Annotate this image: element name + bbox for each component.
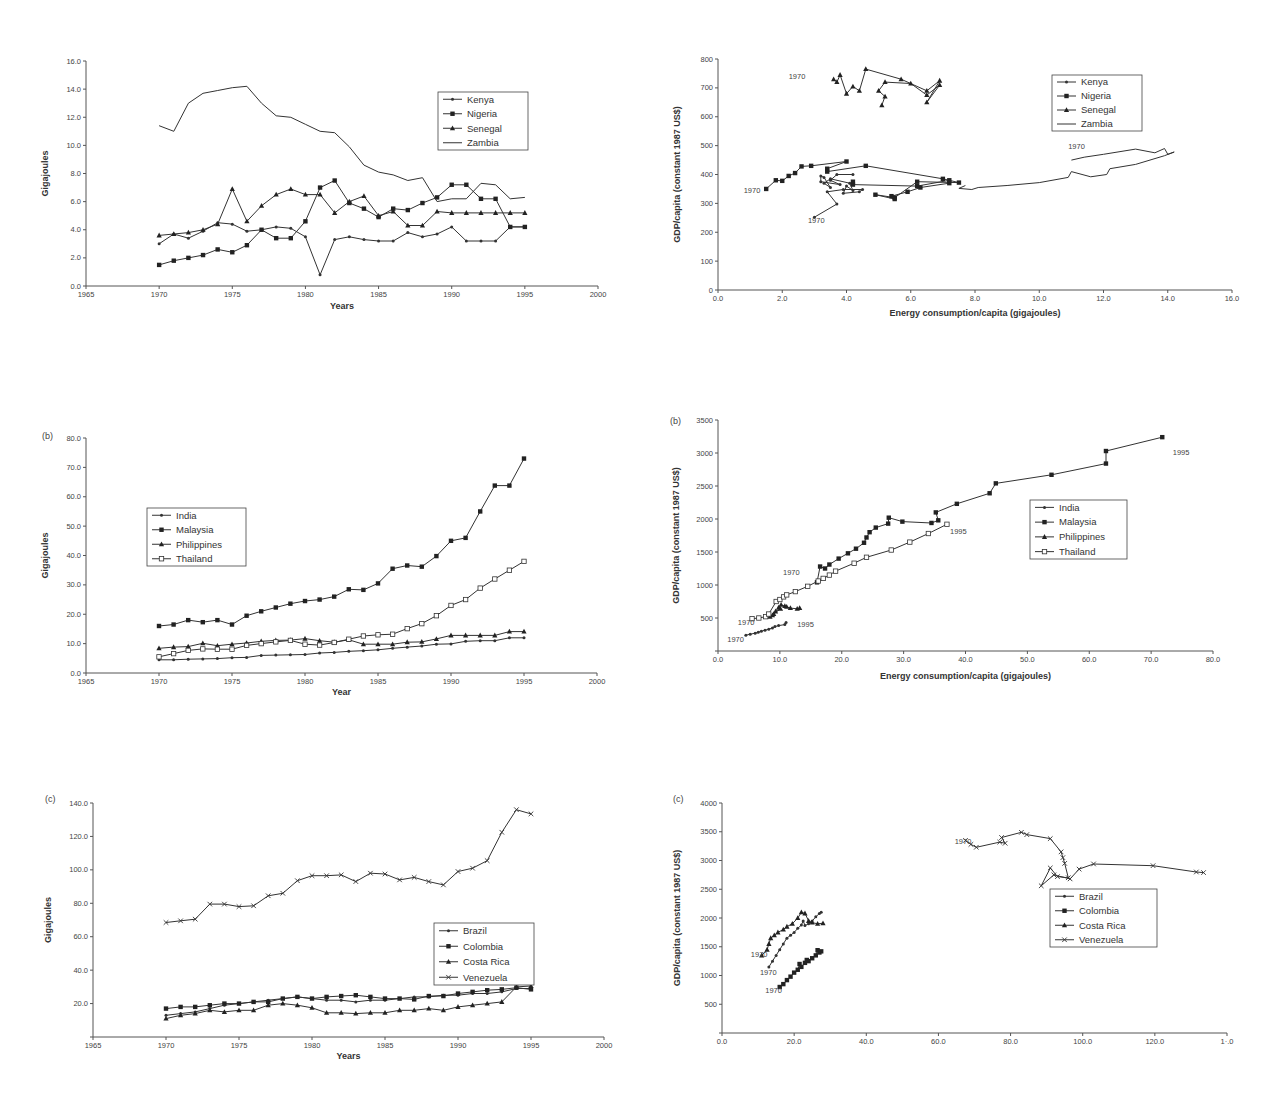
dot-marker bbox=[333, 238, 336, 241]
dot-marker bbox=[479, 639, 482, 642]
year-annotation: 1995 bbox=[797, 620, 814, 629]
square-marker bbox=[478, 509, 482, 513]
open-square-marker bbox=[852, 561, 856, 565]
triangle-marker bbox=[879, 102, 884, 107]
dot-marker bbox=[319, 273, 322, 276]
chart-a-left: 196519701975198019851990199520000.02.04.… bbox=[40, 57, 606, 312]
year-annotation: 1995 bbox=[950, 527, 967, 536]
open-square-marker bbox=[159, 557, 163, 561]
series-line bbox=[959, 149, 1174, 190]
y-tick-label: 80.0 bbox=[73, 899, 88, 908]
open-square-marker bbox=[889, 548, 893, 552]
square-marker bbox=[915, 184, 919, 188]
open-square-marker bbox=[507, 568, 511, 572]
dot-marker bbox=[304, 235, 307, 238]
square-marker bbox=[1104, 449, 1108, 453]
square-marker bbox=[251, 1000, 255, 1004]
series-philippines bbox=[767, 602, 802, 619]
y-tick-label: 80.0 bbox=[66, 434, 81, 443]
open-square-marker bbox=[784, 593, 788, 597]
square-marker bbox=[508, 225, 512, 229]
y-tick-label: 140.0 bbox=[69, 799, 88, 808]
x-tick-label: 1995 bbox=[516, 677, 533, 686]
dot-marker bbox=[1043, 506, 1046, 509]
dot-marker bbox=[782, 942, 785, 945]
cross-marker bbox=[485, 858, 490, 863]
open-square-marker bbox=[259, 641, 263, 645]
triangle-marker bbox=[779, 602, 784, 607]
legend-label: Philippines bbox=[1059, 531, 1105, 542]
square-marker bbox=[823, 566, 827, 570]
dot-marker bbox=[760, 630, 763, 633]
open-square-marker bbox=[244, 643, 248, 647]
dot-marker bbox=[777, 624, 780, 627]
y-tick-label: 500 bbox=[700, 141, 713, 150]
y-tick-label: 10.0 bbox=[66, 639, 81, 648]
square-marker bbox=[159, 528, 163, 532]
x-tick-label: 20.0 bbox=[787, 1037, 802, 1046]
square-marker bbox=[450, 112, 454, 116]
square-marker bbox=[288, 601, 292, 605]
series-colombia bbox=[164, 985, 533, 1010]
y-tick-label: 10.0 bbox=[66, 141, 81, 150]
year-annotation: 1970 bbox=[955, 837, 972, 846]
dot-marker bbox=[158, 242, 161, 245]
square-marker bbox=[934, 510, 938, 514]
square-marker bbox=[274, 605, 278, 609]
panel-tag: (c) bbox=[673, 794, 684, 804]
triangle-marker bbox=[820, 920, 825, 925]
dot-marker bbox=[771, 960, 774, 963]
square-marker bbox=[157, 624, 161, 628]
x-tick-label: 8.0 bbox=[970, 294, 980, 303]
dot-marker bbox=[435, 643, 438, 646]
x-axis-title: Years bbox=[336, 1051, 360, 1061]
series-line bbox=[159, 561, 524, 656]
square-marker bbox=[215, 618, 219, 622]
y-tick-label: 1500 bbox=[700, 942, 717, 951]
x-tick-label: 1995 bbox=[517, 290, 534, 299]
x-tick-label: 80.0 bbox=[1003, 1037, 1018, 1046]
square-marker bbox=[874, 525, 878, 529]
cross-marker bbox=[1048, 866, 1053, 871]
dot-marker bbox=[508, 636, 511, 639]
dot-marker bbox=[333, 651, 336, 654]
square-marker bbox=[1064, 94, 1068, 98]
square-marker bbox=[818, 564, 822, 568]
x-tick-label: 16.0 bbox=[1225, 294, 1240, 303]
x-tick-label: 2000 bbox=[590, 290, 607, 299]
legend-label: Philippines bbox=[176, 539, 222, 550]
dot-marker bbox=[450, 225, 453, 228]
y-tick-label: 2000 bbox=[696, 515, 713, 524]
legend-label: Nigeria bbox=[1081, 90, 1112, 101]
y-tick-label: 12.0 bbox=[66, 113, 81, 122]
open-square-marker bbox=[816, 579, 820, 583]
legend-label: Colombia bbox=[463, 941, 504, 952]
triangle-marker bbox=[937, 78, 942, 83]
panel-tag: (b) bbox=[42, 431, 53, 441]
dot-marker bbox=[858, 190, 861, 193]
series-senegal bbox=[831, 66, 942, 107]
y-tick-label: 1000 bbox=[700, 971, 717, 980]
open-square-marker bbox=[827, 573, 831, 577]
square-marker bbox=[446, 944, 450, 948]
dot-marker bbox=[851, 173, 854, 176]
cross-marker bbox=[1077, 867, 1082, 872]
square-marker bbox=[201, 620, 205, 624]
dot-marker bbox=[172, 658, 175, 661]
y-axis-title: GDP/capita (constant 1987 US$) bbox=[671, 467, 681, 604]
open-square-marker bbox=[215, 647, 219, 651]
x-tick-label: 50.0 bbox=[1020, 655, 1035, 664]
cross-marker bbox=[500, 830, 505, 835]
square-marker bbox=[186, 256, 190, 260]
x-tick-label: 4.0 bbox=[841, 294, 851, 303]
square-marker bbox=[873, 193, 877, 197]
open-square-marker bbox=[522, 559, 526, 563]
square-marker bbox=[186, 618, 190, 622]
open-square-marker bbox=[274, 640, 278, 644]
y-tick-label: 50.0 bbox=[66, 522, 81, 531]
square-marker bbox=[368, 995, 372, 999]
legend-label: Zambia bbox=[467, 137, 499, 148]
square-marker bbox=[362, 206, 366, 210]
dot-marker bbox=[362, 649, 365, 652]
square-marker bbox=[941, 177, 945, 181]
